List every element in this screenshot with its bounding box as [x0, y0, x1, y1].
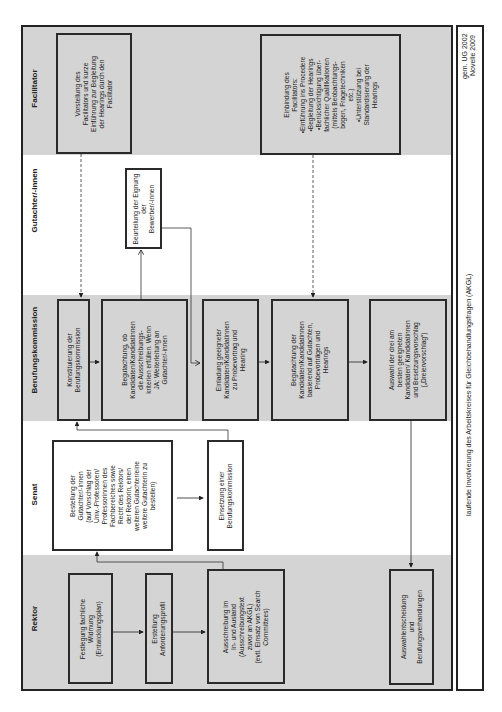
lane-label-kommission: Berufungskommission: [30, 316, 39, 394]
box-begutachtung-kandidaten: Begutachtung der Kandidaten/Kandidatinne…: [271, 299, 349, 421]
box-festlegung-widmung: Festlegung fachliche Widmung (Entwicklun…: [68, 573, 113, 684]
box-auswahl-dreiervorschlag: Auswahl der drei am besten geeigneten Ka…: [369, 299, 447, 421]
box-begutachtung-kriterien: Begutachtung, ob Kandidaten/Kandidatinne…: [101, 299, 188, 421]
box-text: Einsetzung einer Berufungskommission: [217, 463, 233, 528]
box-erstellung-anforderungsprofil: Erstellung Anforderungsprofil: [145, 573, 173, 684]
legal-basis-line2: Novelle 2009: [469, 35, 476, 76]
box-vorstellung-facilitator: Vorstellung des Facilitators und kurze E…: [56, 33, 132, 154]
box-text: Festlegung fachliche Widmung (Entwicklun…: [78, 598, 102, 658]
box-konstituierung: Konstituierung der Berufungskommission: [57, 299, 90, 421]
box-text: Begutachtung, ob Kandidaten/Kandidatinne…: [120, 321, 168, 398]
box-text: Auswahlentscheidung und Berufungsverhand…: [399, 590, 423, 664]
box-text: Vorstellung des Facilitators und kurze E…: [74, 56, 114, 132]
lane-label-senat: Senat: [30, 480, 39, 510]
box-text: Einbindung des Facilitators: •Einführung…: [282, 56, 378, 133]
box-text: Auswahl der drei am besten geeigneten Ka…: [388, 320, 428, 399]
box-text: Ausschreibung im In- und Ausland (Aussch…: [222, 590, 270, 663]
lane-label-rektor: Rektor: [30, 604, 39, 634]
box-einladung-hearing: Einladung geeigneter Kandidaten/Kandidat…: [202, 299, 259, 421]
box-text: Beurteilung der Eignung der Bewerber/-in…: [131, 173, 155, 244]
box-beurteilung-eignung: Beurteilung der Eignung der Bewerber/-in…: [125, 168, 162, 249]
akgl-involvement-label: laufende Involvierung des Arbeitskreises…: [465, 274, 472, 516]
box-ausschreibung: Ausschreibung im In- und Ausland (Aussch…: [207, 569, 285, 684]
box-text: Konstituierung der Berufungskommission: [65, 328, 81, 393]
box-text: Erstellung Anforderungsprofil: [151, 602, 167, 656]
lane-label-facilitator: Facilitator: [30, 69, 39, 109]
box-einbindung-facilitator: Einbindung des Facilitators: •Einführung…: [260, 34, 401, 155]
box-einsetzung-kommission: Einsetzung einer Berufungskommission: [207, 440, 244, 551]
box-text: Begutachtung der Kandidaten/Kandidatinne…: [290, 321, 330, 398]
box-bestellung-gutachter: Bestellung der Gutachter/-innen (auf Vor…: [52, 440, 173, 551]
lane-gutachter: [23, 155, 451, 295]
box-text: Einladung geeigneter Kandidaten/Kandidat…: [214, 321, 246, 398]
lane-label-gutachter: Gutachter/-innen: [30, 173, 39, 233]
box-text: Bestellung der Gutachter/-innen (auf Vor…: [68, 460, 156, 530]
box-auswahlentscheidung: Auswahlentscheidung und Berufungsverhand…: [389, 569, 434, 685]
legal-basis-line1: gem. UG 2002: [461, 33, 468, 79]
